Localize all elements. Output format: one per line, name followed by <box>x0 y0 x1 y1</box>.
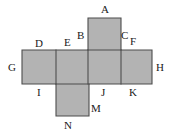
vertex-label-A: A <box>101 4 109 15</box>
face-row-right <box>121 50 152 84</box>
cube-net-svg <box>0 0 173 138</box>
cube-net-figure: A B C D E F G H I J K M N <box>0 0 173 138</box>
vertex-label-G: G <box>8 62 16 73</box>
vertex-label-C: C <box>121 30 128 41</box>
face-top <box>88 18 121 50</box>
vertex-label-I: I <box>37 87 41 98</box>
vertex-label-K: K <box>129 87 137 98</box>
vertex-label-B: B <box>77 30 84 41</box>
face-bottom <box>56 84 89 116</box>
net-faces-group <box>22 18 152 116</box>
vertex-label-H: H <box>156 62 164 73</box>
vertex-label-F: F <box>130 36 136 47</box>
face-row-left <box>22 50 56 84</box>
vertex-label-M: M <box>91 103 101 114</box>
face-row-third <box>88 50 121 84</box>
vertex-label-N: N <box>64 120 72 131</box>
vertex-label-E: E <box>64 37 71 48</box>
vertex-label-D: D <box>35 38 43 49</box>
vertex-label-J: J <box>101 87 105 98</box>
face-row-second <box>56 50 88 84</box>
